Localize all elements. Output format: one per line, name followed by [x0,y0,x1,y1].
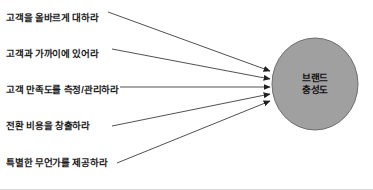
driver-arrow-1 [108,12,270,71]
driver-arrow-2 [112,49,270,79]
arrow-group [108,12,270,163]
driver-arrow-4 [112,94,270,126]
brand-loyalty-label: 브랜드 충성도 [272,72,358,96]
driver-label-2: 고객과 가까이에 있어라 [6,49,99,59]
driver-label-1: 고객을 올바르게 대하라 [6,13,99,23]
driver-label-3: 고객 만족도를 측정/관리하라 [6,85,119,95]
bottom-divider [0,189,373,190]
brand-loyalty-diagram: 고객을 올바르게 대하라고객과 가까이에 있어라고객 만족도를 측정/관리하라전… [0,0,373,190]
brand-loyalty-label-line2: 충성도 [272,84,358,96]
driver-label-4: 전환 비용을 창출하라 [6,121,90,131]
brand-loyalty-label-line1: 브랜드 [272,72,358,84]
driver-arrow-5 [117,101,270,163]
driver-label-5: 특별한 무언가를 제공하라 [6,158,108,168]
